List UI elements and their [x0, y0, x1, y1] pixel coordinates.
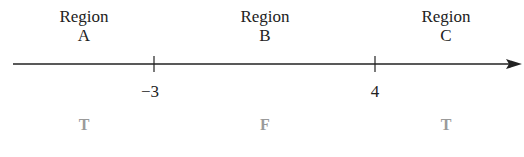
region-c-letter: C [396, 26, 496, 45]
region-b-letter: B [215, 26, 315, 45]
region-b-label: Region B [215, 7, 315, 45]
region-a-label: Region A [34, 7, 134, 45]
region-a-letter: A [34, 26, 134, 45]
tick-label-4: 4 [355, 82, 395, 102]
region-a-truth: T [69, 116, 99, 134]
region-a-name: Region [34, 7, 134, 26]
region-b-truth: F [250, 116, 280, 134]
region-c-truth: T [431, 116, 461, 134]
region-c-name: Region [396, 7, 496, 26]
tick-label-minus-3: −3 [130, 82, 170, 102]
region-b-name: Region [215, 7, 315, 26]
region-c-label: Region C [396, 7, 496, 45]
